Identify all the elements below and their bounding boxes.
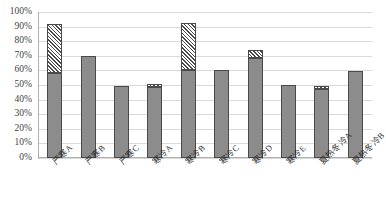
bar-series-group [38,12,372,158]
y-tick-label: 20% [15,124,32,134]
bar-segment-solid-segment[interactable] [147,87,162,158]
bar-group[interactable] [314,12,329,158]
bar-segment-solid-segment[interactable] [348,71,363,158]
bar-group[interactable] [47,12,62,158]
bar-group[interactable] [281,12,296,158]
plot-area [38,12,372,158]
x-axis-labels: 严寒A严寒B严寒C寒冷A寒冷B寒冷C寒冷D寒冷E夏热冬冷A夏热冬冷B [38,158,372,212]
y-tick-label: 0% [19,153,32,163]
bar-group[interactable] [114,12,129,158]
bar-segment-solid-segment[interactable] [81,56,96,158]
bar-group[interactable] [248,12,263,158]
bar-segment-solid-segment[interactable] [181,70,196,158]
bar-group[interactable] [81,12,96,158]
y-tick-label: 10% [15,139,32,149]
bar-segment-solid-segment[interactable] [47,73,62,158]
bar-segment-solid-segment[interactable] [214,70,229,158]
bar-segment-hatched-segment[interactable] [314,86,329,88]
y-tick-label: 50% [15,80,32,90]
y-tick-label: 70% [15,51,32,61]
y-tick-label: 60% [15,66,32,76]
bar-group[interactable] [147,12,162,158]
y-tick-label: 100% [10,7,32,17]
bar-group[interactable] [214,12,229,158]
bar-segment-hatched-segment[interactable] [147,84,162,88]
bar-group[interactable] [181,12,196,158]
y-tick-label: 40% [15,95,32,105]
y-tick-label: 90% [15,22,32,32]
bar-segment-solid-segment[interactable] [281,85,296,158]
y-axis-labels: 0%10%20%30%40%50%60%70%80%90%100% [0,0,36,212]
bar-segment-solid-segment[interactable] [248,58,263,158]
bar-segment-hatched-segment[interactable] [181,23,196,70]
bar-segment-hatched-segment[interactable] [248,50,263,58]
bar-segment-solid-segment[interactable] [114,86,129,158]
bar-segment-hatched-segment[interactable] [47,24,62,73]
y-tick-label: 30% [15,109,32,119]
y-tick-label: 80% [15,36,32,46]
